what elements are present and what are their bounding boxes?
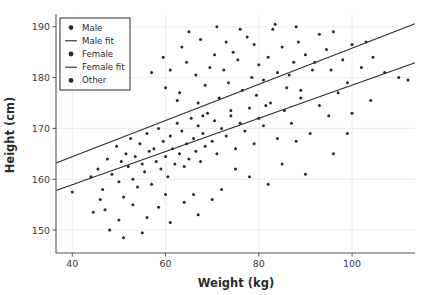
scatter-point: [197, 101, 200, 104]
scatter-point: [120, 160, 123, 163]
scatter-point: [253, 43, 256, 46]
scatter-point: [290, 122, 293, 125]
legend-entry-label[interactable]: Male fit: [82, 36, 115, 46]
x-tick-label: 100: [343, 258, 361, 269]
scatter-point: [122, 196, 125, 199]
scatter-point: [103, 208, 106, 211]
scatter-point: [136, 185, 139, 188]
scatter-point: [141, 163, 144, 166]
scatter-point: [183, 165, 186, 168]
scatter-point: [197, 124, 200, 127]
scatter-point: [213, 53, 216, 56]
scatter-point: [141, 231, 144, 234]
scatter-point: [185, 61, 188, 64]
scatter-point: [332, 30, 335, 33]
x-tick-label: 80: [253, 258, 265, 269]
scatter-point: [187, 30, 190, 33]
scatter-point: [183, 201, 186, 204]
scatter-point: [178, 91, 181, 94]
scatter-point: [164, 155, 167, 158]
scatter-point: [145, 216, 148, 219]
scatter-point: [213, 119, 216, 122]
scatter-point: [206, 112, 209, 115]
scatter-point: [92, 211, 95, 214]
scatter-point: [332, 152, 335, 155]
scatter-point: [330, 68, 333, 71]
scatter-point: [131, 203, 134, 206]
scatter-point: [110, 173, 113, 176]
scatter-point: [152, 147, 155, 150]
legend-entry-label[interactable]: Male: [82, 23, 102, 33]
scatter-point: [129, 137, 132, 140]
scatter-point: [274, 23, 277, 26]
scatter-point: [194, 74, 197, 77]
scatter-point: [269, 101, 272, 104]
scatter-point: [117, 180, 120, 183]
legend-entry-label[interactable]: Female: [82, 49, 113, 59]
scatter-point: [162, 140, 165, 143]
plot-canvas: 406080100150160170180190 Weight (kg) Hei…: [0, 0, 423, 295]
scatter-point: [351, 112, 354, 115]
scatter-point: [143, 170, 146, 173]
scatter-point: [169, 221, 172, 224]
scatter-point: [145, 132, 148, 135]
scatter-point: [239, 28, 242, 31]
scatter-point: [150, 71, 153, 74]
scatter-point: [243, 129, 246, 132]
scatter-point: [124, 152, 127, 155]
scatter-point: [341, 58, 344, 61]
scatter-point: [304, 173, 307, 176]
scatter-point: [157, 127, 160, 130]
scatter-point: [194, 150, 197, 153]
y-axis-label: Height (cm): [3, 97, 17, 174]
scatter-point: [234, 147, 237, 150]
scatter-point: [281, 163, 284, 166]
scatter-point: [232, 51, 235, 54]
scatter-point: [295, 25, 298, 28]
scatter-point: [96, 168, 99, 171]
scatter-point: [262, 124, 265, 127]
scatter-point: [262, 79, 265, 82]
scatter-point: [337, 91, 340, 94]
scatter-point: [204, 145, 207, 148]
legend-entry-label[interactable]: Other: [82, 75, 107, 85]
scatter-point: [288, 74, 291, 77]
legend-marker-icon: [69, 52, 74, 57]
scatter-point: [222, 68, 225, 71]
scatter-point: [192, 193, 195, 196]
scatter-point: [101, 188, 104, 191]
scatter-point: [246, 35, 249, 38]
scatter-point: [255, 94, 258, 97]
scatter-point: [311, 68, 314, 71]
scatter-point: [292, 61, 295, 64]
scatter-point: [397, 76, 400, 79]
scatter-point: [271, 28, 274, 31]
scatter-point: [236, 58, 239, 61]
scatter-point: [178, 152, 181, 155]
legend-marker-icon: [69, 78, 74, 83]
scatter-point: [138, 142, 141, 145]
scatter-point: [327, 114, 330, 117]
scatter-point: [169, 135, 172, 138]
legend[interactable]: MaleMale fitFemaleFemale fitOther: [60, 18, 130, 90]
scatter-point: [71, 190, 74, 193]
scatter-point: [257, 63, 260, 66]
scatter-point: [215, 25, 218, 28]
x-tick-label: 60: [160, 258, 172, 269]
y-tick-label: 180: [32, 72, 50, 83]
scatter-point: [281, 46, 284, 49]
legend-entry-label[interactable]: Female fit: [82, 62, 125, 72]
scatter-point: [134, 155, 137, 158]
scatter-point: [211, 198, 214, 201]
scatter-point: [190, 117, 193, 120]
scatter-point: [225, 40, 228, 43]
scatter-point: [369, 99, 372, 102]
scatter-point: [318, 33, 321, 36]
scatter-point: [227, 81, 230, 84]
scatter-point: [267, 183, 270, 186]
scatter-point: [220, 127, 223, 130]
scatter-point: [187, 157, 190, 160]
scatter-point: [157, 206, 160, 209]
y-tick-label: 170: [32, 123, 50, 134]
scatter-point: [169, 68, 172, 71]
